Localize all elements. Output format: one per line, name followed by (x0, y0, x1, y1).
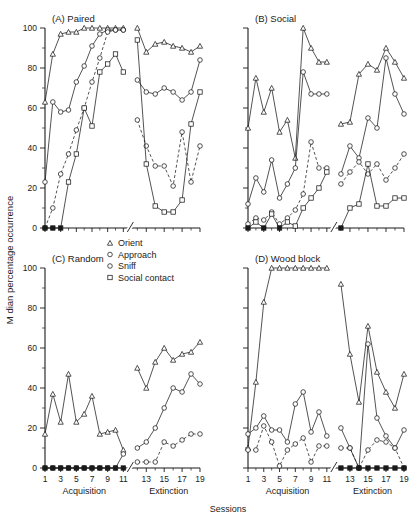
data-point-marker (309, 430, 314, 435)
y-tick-label: 100 (23, 23, 37, 33)
data-point-marker (365, 323, 370, 328)
data-point-marker (171, 90, 176, 95)
data-point-marker (189, 432, 194, 437)
data-point-marker (261, 414, 266, 419)
data-point-marker (402, 112, 407, 117)
x-tick-label: 13 (345, 474, 355, 484)
data-point-marker (339, 226, 343, 230)
data-point-marker (339, 446, 344, 451)
data-point-marker (375, 126, 380, 131)
data-point-marker (180, 438, 185, 443)
data-point-marker (171, 386, 176, 391)
data-point-marker (162, 440, 167, 445)
data-point-marker (347, 119, 352, 124)
data-point-marker (301, 390, 306, 395)
y-tick-label: 20 (28, 183, 38, 193)
data-point-marker (269, 85, 274, 90)
data-point-marker (144, 162, 148, 166)
data-point-marker (393, 446, 398, 451)
data-point-marker (197, 43, 202, 48)
data-point-marker (198, 432, 203, 437)
phase-label-extinction: Extinction (149, 486, 188, 496)
data-point-marker (113, 28, 118, 33)
data-point-marker (317, 186, 321, 190)
series-line (248, 28, 327, 158)
series-D-orient (245, 265, 406, 450)
data-point-marker (197, 339, 202, 344)
data-point-marker (402, 466, 406, 470)
x-tick-label: 19 (195, 474, 205, 484)
y-tick-label: 40 (28, 143, 38, 153)
series-line (341, 48, 404, 124)
data-point-marker (384, 440, 389, 445)
data-point-marker (98, 32, 103, 37)
x-tick-label: 15 (159, 474, 169, 484)
data-point-marker (51, 100, 56, 105)
y-tick-label: 80 (28, 303, 38, 313)
data-point-marker (90, 124, 94, 128)
data-point-marker (317, 444, 322, 449)
data-point-marker (347, 351, 352, 356)
series-D-social-contact (339, 466, 406, 470)
data-point-marker (121, 452, 126, 457)
data-point-marker (135, 460, 140, 465)
data-point-marker (254, 426, 259, 431)
data-point-marker (82, 466, 86, 470)
data-point-marker (66, 180, 70, 184)
data-point-marker (366, 466, 370, 470)
data-point-marker (162, 86, 167, 91)
data-point-marker (285, 117, 290, 122)
data-point-marker (339, 466, 343, 470)
data-point-marker (339, 172, 344, 177)
panel-a-title: (A) Paired (52, 13, 95, 24)
data-point-marker (277, 226, 281, 230)
series-line (45, 54, 123, 228)
data-point-marker (189, 180, 194, 185)
data-point-marker (66, 152, 71, 157)
data-point-marker (113, 52, 117, 56)
figure-container: (A) Paired(B) Social(C) Random(D) Wood b… (0, 0, 409, 521)
data-point-marker (246, 448, 251, 453)
data-point-marker (121, 28, 126, 33)
data-point-marker (90, 466, 94, 470)
data-point-marker (135, 25, 140, 30)
y-tick-label: 0 (32, 463, 37, 473)
x-tick-label: 7 (293, 474, 298, 484)
data-point-marker (58, 419, 63, 424)
x-tick-label: 3 (58, 474, 63, 484)
series-line (137, 374, 200, 448)
data-point-marker (401, 75, 406, 80)
x-tick-label: 7 (90, 474, 95, 484)
data-point-marker (254, 176, 259, 181)
data-point-marker (144, 90, 149, 95)
data-point-marker (162, 345, 167, 350)
data-point-marker (51, 466, 55, 470)
series-line (341, 58, 404, 174)
x-tick-label: 15 (363, 474, 373, 484)
data-point-marker (401, 371, 406, 376)
data-point-marker (180, 390, 185, 395)
data-point-marker (105, 62, 109, 66)
data-point-marker (293, 224, 297, 228)
data-point-marker (180, 198, 184, 202)
data-point-marker (43, 466, 47, 470)
legend-item-orient: Orient (118, 238, 143, 248)
data-point-marker (393, 92, 398, 97)
data-point-marker (301, 70, 306, 75)
data-point-marker (375, 438, 380, 443)
data-point-marker (189, 90, 194, 95)
data-point-marker (113, 427, 118, 432)
data-point-marker (171, 184, 176, 189)
data-point-marker (189, 372, 194, 377)
data-point-marker (317, 92, 322, 97)
data-point-marker (309, 196, 313, 200)
data-point-marker (107, 240, 112, 245)
data-point-marker (357, 160, 362, 165)
legend-item-approach: Approach (118, 250, 157, 260)
phase-label-acquisition: Acquisition (266, 486, 310, 496)
series-line (248, 268, 327, 448)
data-point-marker (98, 70, 102, 74)
data-point-marker (366, 162, 370, 166)
data-point-marker (98, 56, 103, 61)
data-point-marker (348, 144, 353, 149)
